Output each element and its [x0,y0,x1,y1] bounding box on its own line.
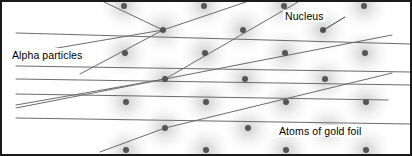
label-atoms-of-gold-foil: Atoms of gold foil [277,125,363,137]
atom-nucleus [322,76,328,82]
atom-nucleus [363,147,369,153]
atom-nucleus [123,99,129,105]
atom-nucleus [242,76,248,82]
atom-nucleus [201,3,207,9]
atom-nucleus [361,3,367,9]
atom-nucleus [162,125,168,131]
atom-nucleus [283,99,289,105]
atom-nucleus [245,125,251,131]
atom-nucleus [203,99,209,105]
atom-nucleus [122,50,128,56]
atom-nucleus [283,147,289,153]
atom-nucleus [162,76,168,82]
atom-nucleus [240,27,246,33]
label-alpha-particles: Alpha particles [10,48,85,62]
atom-nucleus [160,27,166,33]
label-nucleus: Nucleus [283,10,326,22]
atom-nucleus [362,50,368,56]
atom-nucleus [282,50,288,56]
atom-nucleus [281,3,287,9]
atom-nucleus [202,50,208,56]
atom-nucleus [123,147,129,153]
atom-nucleus [363,99,369,105]
rutherford-scattering-figure: Alpha particles Nucleus Atoms of gold fo… [0,0,412,156]
atom-nucleus [203,147,209,153]
atom-nucleus [121,3,127,9]
